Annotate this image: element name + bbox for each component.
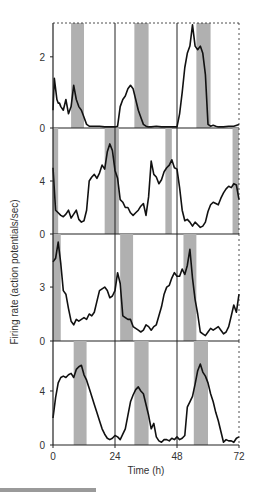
x-tick-label: 48 [171,451,183,462]
dark-phase-band [134,341,148,445]
y-tick-label: 0 [39,440,45,451]
y-tick-label: 4 [39,176,45,187]
dark-phase-band [74,341,87,445]
dark-phase-band [165,128,171,234]
y-tick-label: 0 [39,123,45,134]
dark-phase-band [120,234,133,341]
firing-rate-trace-panel-2 [53,144,239,228]
dark-phase-band [134,23,148,128]
dark-phase-band [194,341,208,445]
firing-rate-chart: 020403040244872 [0,0,254,492]
y-tick-label: 0 [39,229,45,240]
decorative-bar [0,488,96,492]
y-axis-label: Firing rate (action potentials/sec) [9,199,20,344]
dark-phase-band [105,128,119,234]
x-tick-label: 0 [50,451,56,462]
dark-phase-band [233,128,239,234]
dark-phase-band [196,23,210,128]
y-tick-label: 4 [39,386,45,397]
firing-rate-trace-panel-3 [53,242,239,336]
y-tick-label: 2 [39,52,45,63]
y-tick-label: 0 [39,336,45,347]
x-axis-label: Time (h) [128,465,165,476]
x-tick-label: 72 [233,451,245,462]
x-tick-label: 24 [109,451,121,462]
y-tick-label: 3 [39,282,45,293]
